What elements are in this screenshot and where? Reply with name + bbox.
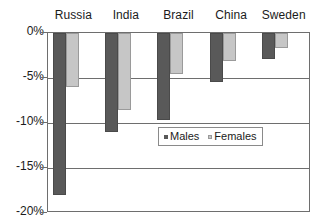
bar-sweden-females[interactable]	[275, 33, 288, 48]
bar-group	[205, 33, 257, 211]
bar-group	[257, 33, 309, 211]
category-label-4: Sweden	[257, 6, 310, 26]
bar-group	[152, 33, 204, 211]
bar-china-males[interactable]	[210, 33, 223, 82]
legend-label-males: Males	[170, 130, 199, 143]
bar-china-females[interactable]	[223, 33, 236, 61]
legend-swatch-males-icon	[164, 135, 168, 139]
category-label-0: Russia	[47, 6, 100, 26]
y-axis-tick-label: 0%	[4, 24, 44, 38]
bar-russia-males[interactable]	[53, 33, 66, 195]
bar-sweden-males[interactable]	[262, 33, 275, 59]
y-axis-tick-label: -15%	[4, 159, 44, 173]
bar-brazil-males[interactable]	[157, 33, 170, 120]
y-axis-tick-label: -5%	[4, 69, 44, 83]
bar-india-females[interactable]	[118, 33, 131, 110]
bar-groups	[48, 33, 309, 211]
legend-swatch-females-icon	[208, 135, 212, 139]
category-axis-labels: Russia India Brazil China Sweden	[47, 6, 310, 26]
y-axis-tick-label: -20%	[4, 204, 44, 218]
bar-group	[100, 33, 152, 211]
category-label-1: India	[100, 6, 153, 26]
bar-group	[48, 33, 100, 211]
legend-label-females: Females	[214, 130, 256, 143]
y-axis-tick-label: -10%	[4, 114, 44, 128]
bar-india-males[interactable]	[105, 33, 118, 132]
y-axis-tick-mark	[41, 212, 47, 213]
category-label-3: China	[205, 6, 258, 26]
bar-russia-females[interactable]	[66, 33, 79, 87]
bar-chart: Russia India Brazil China Sweden 0%-5%-1…	[0, 0, 325, 223]
category-label-2: Brazil	[152, 6, 205, 26]
legend-entry-males: Males	[164, 130, 199, 143]
plot-area	[47, 32, 310, 212]
legend: Males Females	[158, 127, 263, 146]
bar-brazil-females[interactable]	[170, 33, 183, 74]
legend-entry-females: Females	[208, 130, 256, 143]
